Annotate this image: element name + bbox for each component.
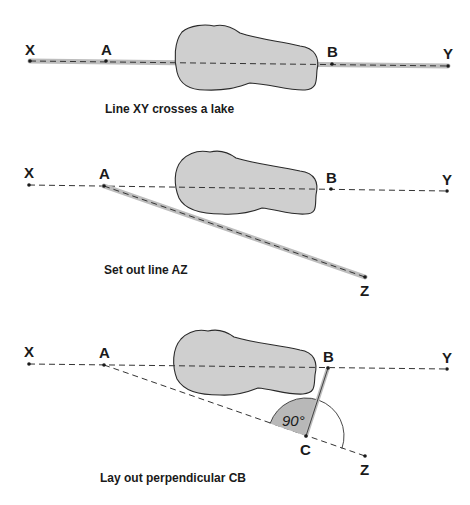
point-y [445, 189, 449, 193]
point-a [102, 363, 106, 367]
label-z: Z [360, 461, 369, 478]
caption-panel-2: Set out line AZ [104, 263, 188, 277]
label-y: Y [442, 349, 452, 366]
point-x [27, 362, 31, 366]
point-y [446, 64, 450, 68]
point-y [445, 367, 449, 371]
label-x: X [25, 41, 35, 58]
label-a: A [101, 41, 112, 58]
point-z [363, 275, 367, 279]
label-a: A [99, 165, 110, 182]
lake-shape [174, 330, 316, 395]
label-x: X [24, 343, 34, 360]
label-z: Z [360, 282, 369, 299]
point-b [329, 187, 333, 191]
surveying-diagram: X A B Y Line XY crosses a lake X A B Y Z… [0, 0, 470, 505]
point-a [104, 59, 108, 63]
angle-label: 90° [282, 412, 305, 429]
label-y: Y [443, 45, 453, 62]
point-a [102, 184, 106, 188]
lake-shape [175, 25, 318, 90]
point-c [304, 434, 308, 438]
panel-1: X A B Y Line XY crosses a lake [25, 25, 453, 116]
point-x [28, 59, 32, 63]
caption-panel-1: Line XY crosses a lake [105, 102, 235, 116]
label-x: X [24, 164, 34, 181]
label-b: B [326, 169, 337, 186]
point-b [330, 62, 334, 66]
label-b: B [323, 348, 334, 365]
point-z [363, 454, 367, 458]
panel-2: X A B Y Z Set out line AZ [24, 151, 452, 299]
point-b [326, 366, 330, 370]
lake-shape [175, 151, 317, 214]
label-a: A [99, 344, 110, 361]
label-b: B [327, 43, 338, 60]
point-x [27, 183, 31, 187]
label-c: C [300, 441, 311, 458]
label-y: Y [442, 171, 452, 188]
panel-3: 90° X A B Y C Z Lay out perpendicular CB [24, 330, 452, 485]
caption-panel-3: Lay out perpendicular CB [100, 471, 246, 485]
